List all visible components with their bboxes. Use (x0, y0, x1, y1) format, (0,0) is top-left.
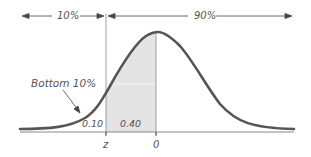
bottom-annotation-label: Bottom 10% (31, 78, 96, 89)
tick-label-zero: 0 (153, 140, 159, 150)
left-percent-label: 10% (57, 11, 79, 21)
annotation-pointer (63, 90, 80, 113)
right-percent-label: 90% (194, 11, 216, 21)
area-left-label: 0.10 (82, 119, 103, 129)
area-mid-label: 0.40 (120, 119, 141, 129)
tick-label-z: z (103, 140, 108, 150)
